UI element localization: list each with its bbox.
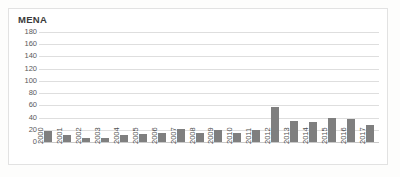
x-axis-tick-label: 2012 <box>264 127 272 144</box>
x-axis-tick-labels: 2000200120022003200420052006200720082009… <box>39 144 379 170</box>
bar-slot <box>171 32 190 142</box>
chart-title: MENA <box>18 14 47 25</box>
x-axis-tick-label: 2014 <box>302 127 310 144</box>
x-label-slot: 2006 <box>152 144 171 170</box>
bar-slot <box>285 32 304 142</box>
bar-slot <box>77 32 96 142</box>
bar-slot <box>322 32 341 142</box>
x-axis-tick-label: 2009 <box>207 127 215 144</box>
bar[interactable] <box>177 129 185 142</box>
bar[interactable] <box>233 133 241 142</box>
x-label-slot: 2013 <box>285 144 304 170</box>
bar[interactable] <box>214 130 222 142</box>
bar-slot <box>115 32 134 142</box>
bar-slot <box>266 32 285 142</box>
bar-series <box>39 32 379 142</box>
x-label-slot: 2017 <box>360 144 379 170</box>
x-axis-tick-label: 2004 <box>113 127 121 144</box>
bar[interactable] <box>63 135 71 142</box>
x-axis-tick-label: 2003 <box>94 127 102 144</box>
bar-slot <box>360 32 379 142</box>
bar[interactable] <box>309 122 317 142</box>
x-label-slot: 2008 <box>190 144 209 170</box>
bar-slot <box>96 32 115 142</box>
x-axis-tick-label: 2010 <box>226 127 234 144</box>
x-axis-tick-label: 2015 <box>320 127 328 144</box>
x-label-slot: 2002 <box>77 144 96 170</box>
x-axis-tick-label: 2006 <box>150 127 158 144</box>
x-label-slot: 2011 <box>247 144 266 170</box>
x-axis-tick-label: 2011 <box>245 128 253 144</box>
bar[interactable] <box>366 125 374 142</box>
x-axis-tick-label: 2013 <box>283 127 291 144</box>
y-axis-tick-label: 40 <box>29 114 37 122</box>
bar[interactable] <box>139 134 147 142</box>
x-label-slot: 2010 <box>228 144 247 170</box>
y-axis-tick-label: 80 <box>29 89 37 97</box>
bar-slot <box>303 32 322 142</box>
bar-slot <box>228 32 247 142</box>
x-axis-tick-label: 2016 <box>339 127 347 144</box>
plot-area <box>39 32 379 142</box>
bar-slot <box>190 32 209 142</box>
x-axis-tick-label: 2001 <box>56 127 64 144</box>
bar-slot <box>58 32 77 142</box>
bar[interactable] <box>82 138 90 142</box>
bar[interactable] <box>252 130 260 142</box>
bar-slot <box>341 32 360 142</box>
y-axis-tick-labels: 180160140120100806040200 <box>18 32 37 142</box>
bar-slot <box>209 32 228 142</box>
bar-slot <box>133 32 152 142</box>
x-label-slot: 2012 <box>266 144 285 170</box>
x-axis-tick-label: 2017 <box>358 127 366 144</box>
bar[interactable] <box>347 119 355 142</box>
x-axis-tick-label: 2002 <box>75 127 83 144</box>
x-label-slot: 2004 <box>115 144 134 170</box>
y-axis-tick-label: 120 <box>24 65 37 73</box>
bar-slot <box>152 32 171 142</box>
y-axis-tick-label: 60 <box>29 101 37 109</box>
x-label-slot: 2014 <box>303 144 322 170</box>
x-label-slot: 2001 <box>58 144 77 170</box>
x-label-slot: 2005 <box>133 144 152 170</box>
x-axis-tick-label: 2005 <box>132 127 140 144</box>
bar[interactable] <box>271 107 279 142</box>
x-label-slot: 2015 <box>322 144 341 170</box>
bar[interactable] <box>120 135 128 142</box>
x-axis-tick-label: 2000 <box>37 127 45 144</box>
y-axis-tick-label: 140 <box>24 52 37 60</box>
bar[interactable] <box>196 133 204 142</box>
x-label-slot: 2009 <box>209 144 228 170</box>
bar[interactable] <box>101 138 109 142</box>
bar-slot <box>39 32 58 142</box>
x-label-slot: 2000 <box>39 144 58 170</box>
bar-slot <box>247 32 266 142</box>
bar[interactable] <box>290 121 298 142</box>
bar[interactable] <box>328 118 336 142</box>
x-axis-tick-label: 2007 <box>169 127 177 144</box>
x-label-slot: 2016 <box>341 144 360 170</box>
bar[interactable] <box>44 131 52 142</box>
y-axis-tick-label: 180 <box>24 28 37 36</box>
y-axis-tick-label: 160 <box>24 40 37 48</box>
x-axis-tick-label: 2008 <box>188 127 196 144</box>
bar[interactable] <box>158 133 166 142</box>
x-label-slot: 2007 <box>171 144 190 170</box>
y-axis-tick-label: 100 <box>24 77 37 85</box>
x-label-slot: 2003 <box>96 144 115 170</box>
chart-frame: MENA 180160140120100806040200 2000200120… <box>8 8 388 165</box>
